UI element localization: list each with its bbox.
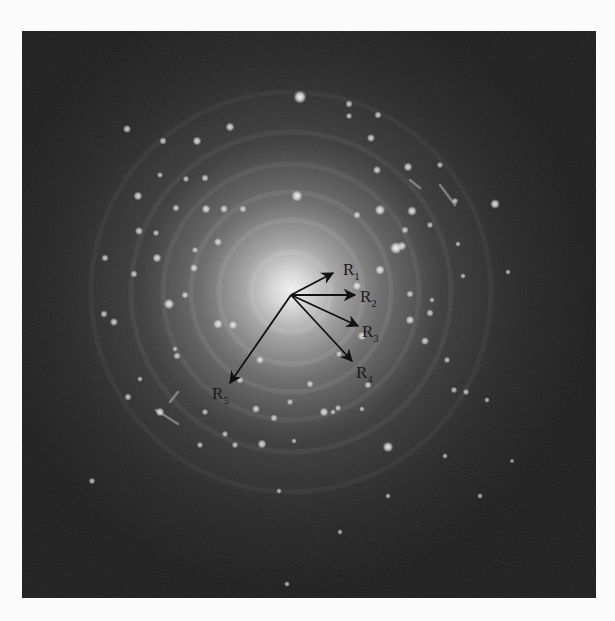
diffraction-figure: R1R2R3R4R5 bbox=[0, 0, 615, 621]
